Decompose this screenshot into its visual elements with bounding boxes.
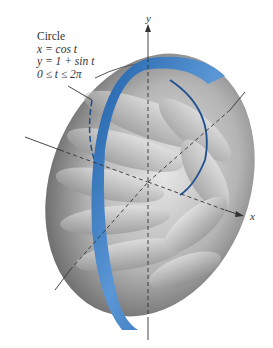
annotation-title: Circle <box>37 30 94 43</box>
torus-figure: Circle x = cos t y = 1 + sin t 0 ≤ t ≤ 2… <box>0 0 273 348</box>
y-axis-arrow-icon <box>145 24 151 32</box>
annotation-x-equation: x = cos t <box>37 43 94 56</box>
x-axis-label: x <box>250 210 255 222</box>
annotation-t-range: 0 ≤ t ≤ 2π <box>37 68 94 81</box>
circle-annotation: Circle x = cos t y = 1 + sin t 0 ≤ t ≤ 2… <box>37 30 94 80</box>
annotation-y-equation: y = 1 + sin t <box>37 55 94 68</box>
y-axis-label: y <box>146 12 151 24</box>
